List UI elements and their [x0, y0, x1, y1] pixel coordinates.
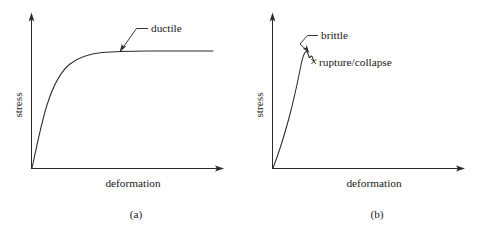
- panel-b-y-axis: [270, 13, 276, 169]
- figure-canvas: ductile stress deformation (a): [0, 0, 482, 236]
- panel-a-ductile-leader-line: [123, 29, 148, 48]
- panel-b-caption: (b): [370, 208, 383, 221]
- panel-b-y-axis-label: stress: [253, 92, 265, 117]
- panel-b-rupture-annotation: rupture/collapse: [319, 56, 392, 68]
- panel-a-y-axis: [29, 13, 35, 169]
- panel-b-brittle-label: brittle: [321, 29, 348, 41]
- panel-b-x-axis: [272, 166, 465, 172]
- panel-b-brittle-annotation: brittle: [300, 29, 348, 53]
- panel-a-ductile-label: ductile: [151, 22, 182, 34]
- panel-b-rupture-label: rupture/collapse: [319, 56, 392, 68]
- panel-a-ductile-curve: [32, 51, 213, 168]
- panel-b: brittle rupture/collapse stress deformat…: [253, 13, 465, 222]
- panel-a: ductile stress deformation (a): [12, 13, 224, 222]
- panel-b-brittle-leader-line: [300, 36, 318, 50]
- panel-a-y-axis-label: stress: [12, 92, 24, 117]
- panel-a-x-axis: [31, 166, 224, 172]
- panel-a-ductile-annotation: ductile: [120, 22, 182, 52]
- panel-b-brittle-curve: [273, 52, 314, 168]
- panel-b-x-axis-label: deformation: [346, 177, 402, 189]
- stress-deformation-figure: ductile stress deformation (a): [0, 0, 482, 236]
- panel-a-caption: (a): [130, 208, 143, 221]
- panel-a-x-axis-label: deformation: [105, 177, 161, 189]
